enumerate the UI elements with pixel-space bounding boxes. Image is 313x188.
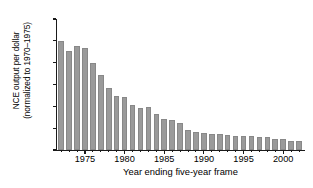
bar: [193, 132, 199, 150]
bar: [233, 136, 239, 150]
x-axis-minor-tick: [235, 150, 236, 152]
x-axis-minor-tick: [195, 150, 196, 152]
x-axis-minor-tick: [172, 150, 173, 152]
x-axis-minor-tick: [259, 150, 260, 152]
bar: [288, 141, 294, 150]
y-axis-tick: [53, 40, 57, 41]
y-axis-tick: [53, 62, 57, 63]
bar: [209, 134, 215, 150]
x-axis-minor-tick: [219, 150, 220, 152]
x-axis-tick-label: 2000: [263, 155, 303, 164]
x-axis-minor-tick: [180, 150, 181, 152]
bar: [98, 75, 104, 150]
bar: [161, 119, 167, 150]
y-axis-title: NCE output per dollar (normalized to 197…: [11, 1, 32, 141]
bar: [82, 48, 88, 150]
bar: [265, 137, 271, 150]
x-axis-minor-tick: [188, 150, 189, 152]
x-axis-minor-tick: [132, 150, 133, 152]
x-axis-minor-tick: [227, 150, 228, 152]
bar: [58, 41, 64, 150]
x-axis-minor-tick: [61, 150, 62, 152]
y-axis-title-line1: NCE output per dollar: [11, 1, 22, 141]
bar: [154, 114, 160, 150]
bar: [169, 120, 175, 150]
bar: [225, 135, 231, 150]
bar: [114, 96, 120, 150]
bar: [74, 46, 80, 150]
bar: [106, 88, 112, 150]
bar: [185, 130, 191, 150]
x-axis-minor-tick: [92, 150, 93, 152]
y-axis-tick: [53, 149, 57, 150]
x-axis-minor-tick: [148, 150, 149, 152]
x-axis-minor-tick: [299, 150, 300, 152]
x-axis-minor-tick: [275, 150, 276, 152]
x-axis-minor-tick: [267, 150, 268, 152]
bar: [257, 137, 263, 150]
x-axis-minor-tick: [140, 150, 141, 152]
bar: [241, 136, 247, 150]
plot-area: 020406080100120 197519801985199019952000: [56, 19, 304, 150]
y-axis-tick: [53, 128, 57, 129]
x-axis-tick-label: 1985: [144, 155, 184, 164]
bar: [249, 136, 255, 150]
bar: [146, 107, 152, 150]
y-axis-line: [56, 19, 57, 150]
x-axis-tick-label: 1990: [184, 155, 224, 164]
x-axis-title: Year ending five-year frame: [56, 166, 305, 177]
bar: [66, 51, 72, 150]
x-axis-minor-tick: [116, 150, 117, 152]
bar: [130, 105, 136, 150]
x-axis-minor-tick: [69, 150, 70, 152]
x-axis-tick-label: 1975: [65, 155, 105, 164]
x-axis-minor-tick: [77, 150, 78, 152]
y-axis-tick: [53, 106, 57, 107]
bar: [272, 139, 278, 150]
x-axis-tick-label: 1995: [224, 155, 264, 164]
chart-figure: NCE output per dollar (normalized to 197…: [0, 0, 313, 188]
bar: [138, 108, 144, 150]
x-axis-tick-label: 1980: [105, 155, 145, 164]
y-axis-tick: [53, 18, 57, 19]
bar: [90, 63, 96, 150]
x-axis-minor-tick: [100, 150, 101, 152]
x-axis-minor-tick: [108, 150, 109, 152]
bar: [122, 97, 128, 150]
bar: [296, 141, 302, 150]
x-axis-minor-tick: [211, 150, 212, 152]
bar: [177, 123, 183, 150]
bar: [201, 133, 207, 150]
y-axis-tick: [53, 84, 57, 85]
x-axis-minor-tick: [251, 150, 252, 152]
bar: [280, 139, 286, 150]
x-axis-minor-tick: [156, 150, 157, 152]
bar: [217, 134, 223, 150]
x-axis-minor-tick: [291, 150, 292, 152]
y-axis-title-line2: (normalized to 1970–1975): [21, 1, 32, 141]
